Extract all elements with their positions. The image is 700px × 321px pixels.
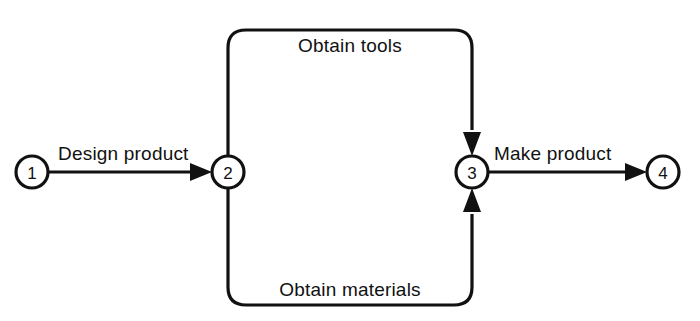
node-3-label: 3 xyxy=(467,164,476,183)
edge-label-obtain-tools: Obtain tools xyxy=(298,35,402,56)
node-2-label: 2 xyxy=(223,164,232,183)
edge-make-product-arrowhead xyxy=(625,163,647,181)
network-diagram: 1 2 3 4 Design product Obtain tools Obta… xyxy=(0,0,700,321)
edge-design-product xyxy=(48,163,212,181)
node-3[interactable]: 3 xyxy=(456,156,488,188)
edge-label-design-product: Design product xyxy=(58,143,189,164)
edge-label-make-product: Make product xyxy=(494,143,612,164)
edge-obtain-materials-arrowhead xyxy=(463,188,481,212)
network-diagram-canvas: 1 2 3 4 Design product Obtain tools Obta… xyxy=(0,0,700,321)
edge-design-product-arrowhead xyxy=(190,163,212,181)
node-2[interactable]: 2 xyxy=(212,156,244,188)
node-1-label: 1 xyxy=(27,164,36,183)
node-1[interactable]: 1 xyxy=(16,156,48,188)
edge-make-product xyxy=(488,163,647,181)
node-4-label: 4 xyxy=(658,164,667,183)
edge-label-obtain-materials: Obtain materials xyxy=(279,279,421,300)
edge-obtain-tools-arrowhead xyxy=(463,132,481,156)
node-4[interactable]: 4 xyxy=(647,156,679,188)
